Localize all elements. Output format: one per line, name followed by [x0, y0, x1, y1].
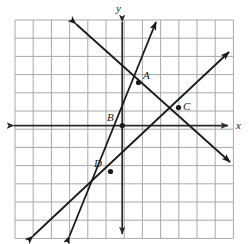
point-b — [120, 123, 125, 128]
y-axis-label: y — [116, 3, 121, 14]
point-d — [108, 169, 113, 174]
point-label-c: C — [183, 101, 190, 112]
point-label-b: B — [107, 112, 114, 123]
point-c — [176, 105, 181, 110]
coordinate-plane-svg — [0, 0, 249, 244]
grid-lines — [15, 20, 233, 238]
coordinate-plane-figure: y x ABCD — [0, 0, 249, 244]
shallow-line-through-D-C — [33, 52, 229, 236]
point-label-d: D — [94, 158, 102, 169]
x-axis-label: x — [236, 120, 241, 131]
plotted-points — [108, 80, 181, 174]
point-a — [136, 80, 141, 85]
point-label-a: A — [143, 70, 150, 81]
